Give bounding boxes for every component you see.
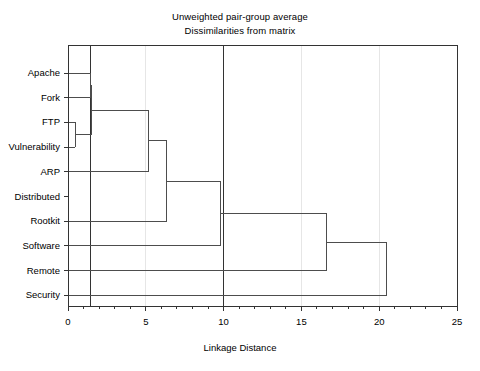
plot-area — [0, 0, 480, 371]
dendrogram-canvas — [0, 0, 480, 371]
dendrogram-figure: Unweighted pair-group average Dissimilar… — [0, 0, 480, 371]
